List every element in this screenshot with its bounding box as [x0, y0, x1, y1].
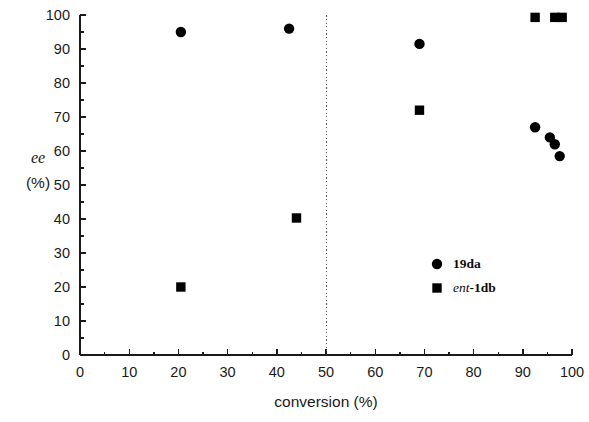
legend-label-ent-prefix: ent: [453, 280, 471, 295]
y-axis-tick-label: 30: [54, 245, 70, 261]
y-axis-tick-label: 40: [54, 211, 70, 227]
data-point: [557, 13, 566, 22]
x-axis-tick-label: 100: [560, 364, 584, 380]
x-axis-tick-label: 10: [121, 364, 137, 380]
plot-background: [0, 0, 589, 422]
x-axis-tick-label: 60: [367, 364, 383, 380]
data-point: [530, 122, 540, 132]
y-axis-tick-label: 0: [62, 347, 70, 363]
y-axis-tick-label: 20: [54, 279, 70, 295]
data-point: [176, 282, 185, 291]
data-point: [550, 139, 560, 149]
legend-label-ent-1db: ent-1db: [453, 280, 496, 295]
scatter-plot-figure: 0102030405060708090100010203040506070809…: [0, 0, 589, 422]
y-axis-tick-label: 70: [54, 109, 70, 125]
legend-label-19da: 19da: [453, 256, 481, 271]
legend-label-1db-suffix: -1db: [470, 280, 496, 295]
y-axis-tick-label: 50: [54, 177, 70, 193]
y-axis-tick-label: 60: [54, 143, 70, 159]
x-axis-tick-label: 50: [318, 364, 334, 380]
x-axis-tick-label: 20: [170, 364, 186, 380]
y-axis-tick-label: 90: [54, 41, 70, 57]
y-axis-title-line1: ee: [31, 149, 45, 166]
x-axis-title: conversion (%): [274, 393, 377, 410]
data-point: [292, 213, 301, 222]
y-axis-title-line2: (%): [26, 174, 50, 191]
x-axis-tick-label: 70: [416, 364, 432, 380]
x-axis-tick-label: 80: [466, 364, 482, 380]
x-axis-tick-label: 0: [76, 364, 84, 380]
y-axis-tick-label: 100: [46, 7, 70, 23]
legend-marker-circle: [432, 259, 442, 269]
data-point: [414, 39, 424, 49]
x-axis-tick-label: 30: [220, 364, 236, 380]
data-point: [555, 151, 565, 161]
y-axis-tick-label: 10: [54, 313, 70, 329]
data-point: [415, 106, 424, 115]
x-axis-tick-label: 90: [515, 364, 531, 380]
plot-canvas: 0102030405060708090100010203040506070809…: [0, 0, 589, 422]
data-point: [176, 27, 186, 37]
legend-marker-square: [432, 283, 441, 292]
y-axis-tick-label: 80: [54, 75, 70, 91]
data-point: [530, 13, 539, 22]
x-axis-tick-label: 40: [269, 364, 285, 380]
data-point: [284, 23, 294, 33]
